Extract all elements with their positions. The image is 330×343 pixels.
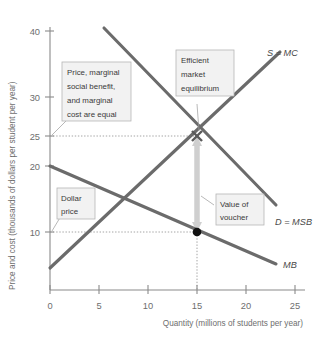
annotation-efficient-equilibrium-line-3: equilibrium xyxy=(181,84,220,93)
y-tick-label-30: 30 xyxy=(30,93,40,103)
annotation-price-msb-mc-line-1: Price, marginal xyxy=(67,68,120,77)
x-axis-title: Quantity (millions of students per year) xyxy=(163,319,303,328)
annotation-dollar-price[interactable]: Dollar price xyxy=(57,188,95,219)
x-tick-label-25: 25 xyxy=(290,301,300,311)
leader-value-of-voucher xyxy=(201,196,214,205)
y-axis-title: Price and cost (thousands of dollars per… xyxy=(8,81,17,290)
annotation-value-of-voucher-line-2: voucher xyxy=(220,213,248,222)
annotation-dollar-price-line-2: price xyxy=(61,207,79,216)
x-tick-label-20: 20 xyxy=(241,301,251,311)
x-tick-label-5: 5 xyxy=(96,301,101,311)
annotation-efficient-equilibrium-line-1: Efficient xyxy=(181,56,210,65)
y-tick-label-20: 20 xyxy=(30,162,40,172)
x-ticks-group: 0 5 10 15 20 25 xyxy=(47,285,300,311)
curve-label-mb: MB xyxy=(283,260,297,270)
y-tick-label-10: 10 xyxy=(30,228,40,238)
leader-price-msb-mc xyxy=(52,121,66,135)
annotation-price-msb-mc-line-3: and marginal xyxy=(67,96,113,105)
economics-chart: 40 30 25 20 10 0 5 10 15 20 25 Price and… xyxy=(0,0,330,343)
annotation-dollar-price-line-1: Dollar xyxy=(61,194,82,203)
x-tick-label-10: 10 xyxy=(143,301,153,311)
curve-labels-group: S = MC D = MSB MB xyxy=(267,48,312,270)
dollar-price-point-marker xyxy=(193,228,202,237)
annotation-price-msb-mc-equal[interactable]: Price, marginal social benefit, and marg… xyxy=(62,62,131,121)
annotation-efficient-market-equilibrium[interactable]: Efficient market equilibrium xyxy=(176,50,234,96)
x-tick-label-15: 15 xyxy=(192,301,202,311)
curve-label-demand-msb: D = MSB xyxy=(275,217,312,227)
y-tick-label-25: 25 xyxy=(30,132,40,142)
curve-label-supply-mc: S = MC xyxy=(267,48,298,58)
annotation-value-of-voucher-line-1: Value of xyxy=(220,200,249,209)
annotation-price-msb-mc-line-4: cost are equal xyxy=(67,110,117,119)
annotation-price-msb-mc-line-2: social benefit, xyxy=(67,82,115,91)
annotation-value-of-voucher[interactable]: Value of voucher xyxy=(216,194,264,225)
y-tick-label-40: 40 xyxy=(30,27,40,37)
value-of-voucher-arrow xyxy=(192,136,202,232)
x-tick-label-0: 0 xyxy=(47,301,52,311)
annotation-efficient-equilibrium-line-2: market xyxy=(181,70,206,79)
